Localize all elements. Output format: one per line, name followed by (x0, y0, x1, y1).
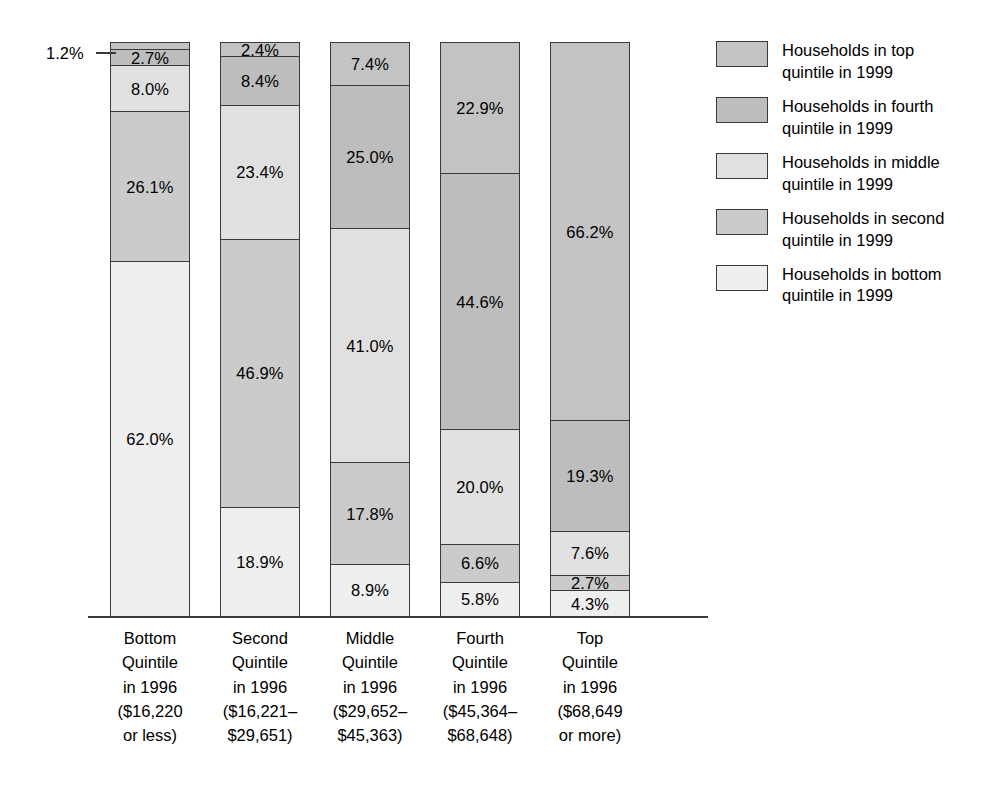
segment-middle-quintile-1996-second[interactable]: 17.8% (331, 462, 409, 566)
legend-label-line: quintile in 1999 (782, 62, 914, 84)
segment-top-quintile-1996-fourth[interactable]: 19.3% (551, 420, 629, 532)
category-label-line: Quintile (418, 650, 542, 674)
segment-fourth-quintile-1996-bottom[interactable]: 5.8% (441, 582, 519, 617)
category-label-line: in 1996 (308, 675, 432, 699)
legend-item-bottom-quintile[interactable]: Households in bottomquintile in 1999 (716, 264, 984, 308)
segment-bottom-quintile-1996-fourth[interactable]: 2.7% (111, 49, 189, 66)
bar-fourth-quintile-1996[interactable]: 22.9%44.6%20.0%6.6%5.8% (440, 42, 520, 617)
segment-value-label: 2.4% (241, 42, 279, 58)
segment-top-quintile-1996-second[interactable]: 2.7% (551, 575, 629, 592)
segment-middle-quintile-1996-top[interactable]: 7.4% (331, 42, 409, 86)
category-label-top-quintile-1996: TopQuintilein 1996($68,649or more) (528, 626, 652, 747)
bar-second-quintile-1996[interactable]: 2.4%8.4%23.4%46.9%18.9% (220, 42, 300, 617)
segment-middle-quintile-1996-fourth[interactable]: 25.0% (331, 85, 409, 230)
segment-value-label: 26.1% (126, 179, 173, 196)
segment-value-label: 7.6% (571, 545, 609, 562)
legend-label: Households in fourthquintile in 1999 (782, 96, 933, 140)
category-axis-labels: BottomQuintilein 1996($16,220or less)Sec… (88, 626, 708, 776)
category-label-line: in 1996 (88, 675, 212, 699)
segment-value-label: 5.8% (461, 591, 499, 608)
segment-value-label: 2.7% (571, 575, 609, 592)
legend-label: Households in secondquintile in 1999 (782, 208, 944, 252)
segment-bottom-quintile-1996-second[interactable]: 26.1% (111, 111, 189, 262)
segment-top-quintile-1996-middle[interactable]: 7.6% (551, 531, 629, 576)
segment-value-label: 19.3% (566, 468, 613, 485)
category-label-line: ($29,652– (308, 699, 432, 723)
category-label-line: Quintile (308, 650, 432, 674)
stacked-bar-plot-area: 1.2%2.7%8.0%26.1%62.0%2.4%8.4%23.4%46.9%… (88, 42, 708, 617)
segment-fourth-quintile-1996-top[interactable]: 22.9% (441, 42, 519, 175)
segment-fourth-quintile-1996-second[interactable]: 6.6% (441, 544, 519, 584)
legend-label: Households in topquintile in 1999 (782, 40, 914, 84)
bar-top-quintile-1996[interactable]: 66.2%19.3%7.6%2.7%4.3% (550, 42, 630, 617)
legend-item-middle-quintile[interactable]: Households in middlequintile in 1999 (716, 152, 984, 196)
legend-label-line: quintile in 1999 (782, 230, 944, 252)
segment-value-label: 8.4% (241, 73, 279, 90)
category-label-line: Second (198, 626, 322, 650)
segment-value-label: 23.4% (236, 164, 283, 181)
segment-second-quintile-1996-bottom[interactable]: 18.9% (221, 507, 299, 617)
segment-value-label: 2.7% (131, 50, 169, 67)
category-label-bottom-quintile-1996: BottomQuintilein 1996($16,220or less) (88, 626, 212, 747)
legend-swatch-top-icon (716, 41, 768, 67)
segment-value-label: 6.6% (461, 555, 499, 572)
bar-middle-quintile-1996[interactable]: 7.4%25.0%41.0%17.8%8.9% (330, 42, 410, 617)
segment-value-label: 18.9% (236, 554, 283, 571)
segment-value-label: 66.2% (566, 224, 613, 241)
category-label-line: $29,651) (198, 723, 322, 747)
legend-label-line: quintile in 1999 (782, 285, 942, 307)
segment-top-quintile-1996-top[interactable]: 66.2% (551, 42, 629, 422)
x-axis-line (88, 616, 708, 618)
category-label-line: Quintile (88, 650, 212, 674)
category-label-line: Top (528, 626, 652, 650)
segment-middle-quintile-1996-middle[interactable]: 41.0% (331, 228, 409, 464)
legend-item-second-quintile[interactable]: Households in secondquintile in 1999 (716, 208, 984, 252)
category-label-line: in 1996 (528, 675, 652, 699)
category-label-fourth-quintile-1996: FourthQuintilein 1996($45,364–$68,648) (418, 626, 542, 747)
segment-fourth-quintile-1996-middle[interactable]: 20.0% (441, 429, 519, 545)
segment-middle-quintile-1996-bottom[interactable]: 8.9% (331, 564, 409, 617)
segment-value-label: 41.0% (346, 338, 393, 355)
segment-top-quintile-1996-bottom[interactable]: 4.3% (551, 590, 629, 617)
category-label-line: ($16,220 (88, 699, 212, 723)
segment-value-label: 62.0% (126, 431, 173, 448)
legend-label-line: quintile in 1999 (782, 174, 940, 196)
legend-item-top-quintile[interactable]: Households in topquintile in 1999 (716, 40, 984, 84)
segment-bottom-quintile-1996-middle[interactable]: 8.0% (111, 65, 189, 113)
legend-item-fourth-quintile[interactable]: Households in fourthquintile in 1999 (716, 96, 984, 140)
category-label-line: Middle (308, 626, 432, 650)
legend-swatch-bottom-icon (716, 265, 768, 291)
legend-label: Households in bottomquintile in 1999 (782, 264, 942, 308)
legend-label-line: Households in bottom (782, 264, 942, 286)
chart-canvas: 1.2%2.7%8.0%26.1%62.0%2.4%8.4%23.4%46.9%… (0, 0, 990, 789)
category-label-line: ($68,649 (528, 699, 652, 723)
category-label-middle-quintile-1996: MiddleQuintilein 1996($29,652–$45,363) (308, 626, 432, 747)
category-label-line: $68,648) (418, 723, 542, 747)
segment-value-label: 25.0% (346, 149, 393, 166)
segment-bottom-quintile-1996-bottom[interactable]: 62.0% (111, 261, 189, 617)
legend-label-line: Households in second (782, 208, 944, 230)
category-label-line: in 1996 (198, 675, 322, 699)
chart-legend: Households in topquintile in 1999Househo… (716, 40, 984, 319)
segment-fourth-quintile-1996-fourth[interactable]: 44.6% (441, 173, 519, 430)
segment-second-quintile-1996-second[interactable]: 46.9% (221, 239, 299, 509)
legend-label-line: quintile in 1999 (782, 118, 933, 140)
category-label-line: ($45,364– (418, 699, 542, 723)
segment-second-quintile-1996-fourth[interactable]: 8.4% (221, 56, 299, 106)
category-label-line: or less) (88, 723, 212, 747)
segment-value-label: 8.0% (131, 81, 169, 98)
segment-value-label: 4.3% (571, 596, 609, 613)
legend-swatch-fourth-icon (716, 97, 768, 123)
legend-swatch-second-icon (716, 209, 768, 235)
legend-label-line: Households in top (782, 40, 914, 62)
callout-leader-line (96, 52, 116, 54)
segment-second-quintile-1996-middle[interactable]: 23.4% (221, 105, 299, 241)
legend-label: Households in middlequintile in 1999 (782, 152, 940, 196)
category-label-line: Bottom (88, 626, 212, 650)
segment-value-label: 7.4% (351, 56, 389, 73)
bar-bottom-quintile-1996[interactable]: 1.2%2.7%8.0%26.1%62.0% (110, 42, 190, 617)
legend-swatch-middle-icon (716, 153, 768, 179)
category-label-line: Quintile (528, 650, 652, 674)
legend-label-line: Households in fourth (782, 96, 933, 118)
category-label-line: Fourth (418, 626, 542, 650)
